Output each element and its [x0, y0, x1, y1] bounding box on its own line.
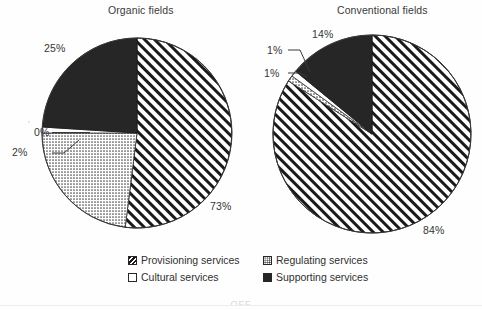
pie-label-conventional-regulating: 1% [267, 44, 283, 56]
legend-item-cultural: Cultural services [128, 272, 263, 283]
pie-label-organic-regulating: 2% [12, 146, 28, 158]
legend-label-provisioning: Provisioning services [141, 255, 240, 266]
chart-title-organic: Organic fields [108, 4, 174, 16]
legend-label-supporting: Supporting services [276, 272, 368, 283]
figure-canvas: Organic fields Conventional fields [0, 0, 482, 310]
chart-legend: Provisioning services Regulating service… [128, 252, 388, 286]
legend-swatch-supporting-icon [263, 273, 272, 282]
pie-label-organic-cultural: 0% [34, 126, 50, 138]
leader-lines-conventional [288, 46, 348, 86]
legend-swatch-regulating-icon [263, 256, 272, 265]
footer-divider [0, 305, 482, 306]
chart-title-conventional: Conventional fields [337, 4, 428, 16]
legend-item-supporting: Supporting services [263, 272, 388, 283]
pie-label-organic-supporting: 25% [44, 42, 66, 54]
legend-item-provisioning: Provisioning services [128, 255, 263, 266]
scan-artifact-mark: ’ [28, 120, 30, 127]
legend-item-regulating: Regulating services [263, 255, 388, 266]
leader-lines-organic [52, 124, 147, 166]
pie-label-conventional-supporting: 14% [312, 28, 334, 40]
legend-swatch-cultural-icon [128, 273, 137, 282]
pie-label-organic-provisioning: 73% [210, 200, 232, 212]
legend-label-cultural: Cultural services [141, 272, 219, 283]
legend-label-regulating: Regulating services [276, 255, 368, 266]
legend-swatch-provisioning-icon [128, 256, 137, 265]
pie-label-conventional-provisioning: 84% [423, 224, 445, 236]
pie-label-conventional-cultural: 1% [264, 67, 280, 79]
